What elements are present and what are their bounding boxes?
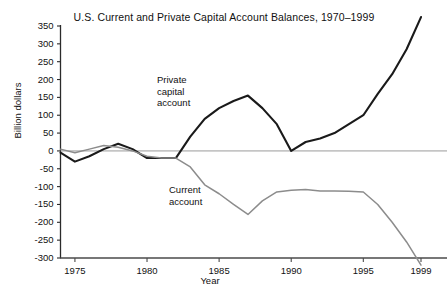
plot-area	[0, 0, 448, 297]
data-series-group	[61, 17, 422, 265]
series-line-private-capital-account	[61, 17, 422, 162]
series-line-current-account	[61, 146, 422, 266]
axis-lines	[57, 25, 447, 262]
chart-container: U.S. Current and Private Capital Account…	[0, 0, 448, 297]
